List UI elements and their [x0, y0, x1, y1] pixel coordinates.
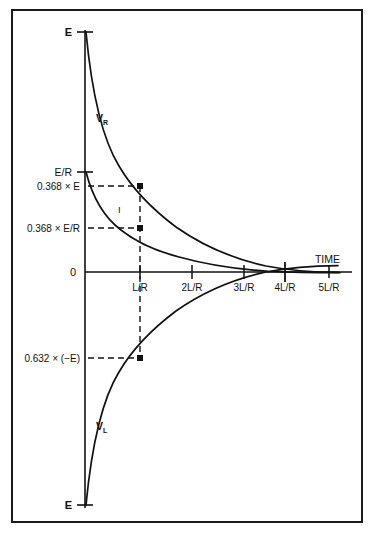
xlabel-1: L/R — [132, 282, 148, 293]
axis-title-time: TIME — [315, 253, 340, 265]
xlabel-3: 3L/R — [233, 282, 254, 293]
label-zero: 0 — [70, 266, 76, 278]
xlabel-2: 2L/R — [181, 282, 202, 293]
curve-label-vr: VR — [96, 112, 108, 126]
curve-label-vr-main: V — [96, 112, 103, 124]
curve-label-i: I — [118, 204, 121, 215]
label-0368-E-over-R: 0.368 × E/R — [27, 223, 80, 234]
xlabel-5: 5L/R — [318, 282, 339, 293]
curve-label-vl: VL — [96, 420, 108, 434]
label-0632-neg-E: 0.632 × (−E) — [24, 353, 80, 364]
figure-root: E E/R 0.368 × E 0.368 × E/R 0 0.632 × (−… — [0, 0, 375, 541]
label-top-E: E — [65, 26, 72, 38]
label-E-over-R: E/R — [54, 166, 72, 178]
curve-label-vl-sub: L — [103, 427, 108, 434]
axes-group — [85, 30, 352, 508]
curve-vr — [86, 32, 338, 272]
marker-vr-at-tau — [137, 183, 143, 189]
curve-vl — [86, 266, 338, 505]
marker-vl-at-tau — [137, 355, 143, 361]
curve-label-vl-main: V — [96, 420, 103, 432]
curve-label-vr-sub: R — [103, 119, 108, 126]
transient-curve-plot: E E/R 0.368 × E 0.368 × E/R 0 0.632 × (−… — [0, 0, 375, 541]
y-axis-labels: E E/R 0.368 × E 0.368 × E/R 0 0.632 × (−… — [24, 26, 80, 511]
xlabel-4: 4L/R — [274, 282, 295, 293]
label-0368-E: 0.368 × E — [37, 181, 80, 192]
label-bottom-E: E — [65, 499, 72, 511]
curve-i — [86, 172, 340, 273]
marker-i-at-tau — [137, 225, 143, 231]
curves-group — [86, 32, 340, 505]
